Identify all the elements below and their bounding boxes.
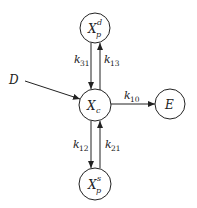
node-xc-label: X — [86, 99, 96, 113]
node-e: E — [155, 89, 185, 119]
svg-text:10: 10 — [130, 95, 140, 104]
rate-k31: k 31 — [74, 53, 90, 68]
node-xp-d: X d p — [80, 13, 110, 43]
svg-text:12: 12 — [79, 144, 89, 153]
node-xc: X c — [79, 89, 111, 121]
node-e-label: E — [164, 98, 174, 112]
node-xp-s: X s p — [79, 168, 111, 200]
rate-k21: k 21 — [105, 138, 121, 153]
rate-k13: k 13 — [104, 53, 120, 68]
input-d-arrow — [25, 81, 80, 99]
node-xp-d-sup: d — [97, 18, 102, 27]
rate-k10: k 10 — [124, 89, 140, 104]
node-xp-s-sub: p — [96, 186, 101, 195]
compartment-diagram: X d p X c E X s p D k 31 k 13 k 10 — [0, 0, 197, 208]
svg-text:21: 21 — [111, 144, 121, 153]
input-d-label: D — [8, 73, 19, 87]
rate-k12: k 12 — [73, 138, 89, 153]
svg-text:13: 13 — [110, 59, 120, 68]
node-xp-s-sup: s — [97, 174, 101, 183]
node-xc-sub: c — [96, 106, 101, 115]
svg-text:31: 31 — [80, 59, 90, 68]
node-xp-d-sub: p — [96, 30, 101, 39]
